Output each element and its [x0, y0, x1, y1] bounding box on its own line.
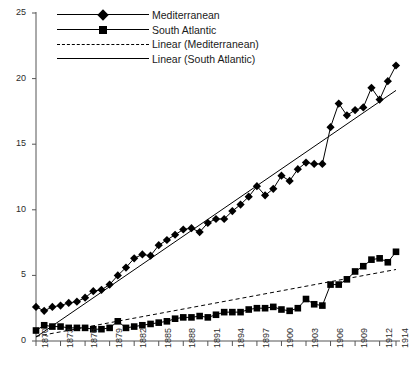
legend-key-linear-mediterranean — [57, 37, 149, 51]
x-tick-label: 1870 — [40, 328, 50, 348]
legend-key-mediterranean — [57, 8, 149, 22]
x-tick-label: 1906 — [335, 328, 345, 348]
y-tick-label: 0 — [4, 335, 26, 345]
x-tick-label: 1900 — [285, 328, 295, 348]
x-tick-label: 1873 — [65, 328, 75, 348]
x-tick-label: 1903 — [310, 328, 320, 348]
y-tick-label: 25 — [4, 7, 26, 17]
chart-legend: Mediterranean South Atlantic Linear (Med… — [57, 8, 259, 66]
x-tick-label: 1891 — [212, 328, 222, 348]
x-tick-label: 1888 — [187, 328, 197, 348]
chart-container: 0510152025 18701873187618791882188518881… — [0, 0, 409, 379]
y-tick-label: 5 — [4, 269, 26, 279]
x-tick-label: 1882 — [138, 328, 148, 348]
legend-item-mediterranean: Mediterranean — [57, 8, 259, 23]
y-tick-label: 20 — [4, 73, 26, 83]
y-tick-label: 15 — [4, 138, 26, 148]
x-tick-label: 1885 — [163, 328, 173, 348]
diamond-marker-icon — [97, 10, 108, 21]
legend-label-south-atlantic: South Atlantic — [152, 23, 216, 37]
legend-item-linear-mediterranean: Linear (Mediterranean) — [57, 37, 259, 52]
legend-label-linear-south-atlantic: Linear (South Atlantic) — [152, 52, 255, 66]
legend-label-mediterranean: Mediterranean — [152, 8, 220, 22]
x-tick-label: 1876 — [89, 328, 99, 348]
x-tick-label: 1897 — [261, 328, 271, 348]
x-tick-label: 1914 — [400, 328, 409, 348]
legend-item-linear-south-atlantic: Linear (South Atlantic) — [57, 52, 259, 67]
x-tick-label: 1909 — [359, 328, 369, 348]
x-tick-label: 1912 — [384, 328, 394, 348]
trendlines — [36, 90, 396, 337]
legend-label-linear-mediterranean: Linear (Mediterranean) — [152, 37, 259, 51]
y-tick-label: 10 — [4, 204, 26, 214]
legend-item-south-atlantic: South Atlantic — [57, 23, 259, 38]
x-tick-label: 1879 — [114, 328, 124, 348]
x-tick-label: 1894 — [236, 328, 246, 348]
square-marker-icon — [99, 26, 107, 34]
legend-key-south-atlantic — [57, 23, 149, 37]
data-series — [32, 61, 400, 333]
legend-key-linear-south-atlantic — [57, 52, 149, 66]
